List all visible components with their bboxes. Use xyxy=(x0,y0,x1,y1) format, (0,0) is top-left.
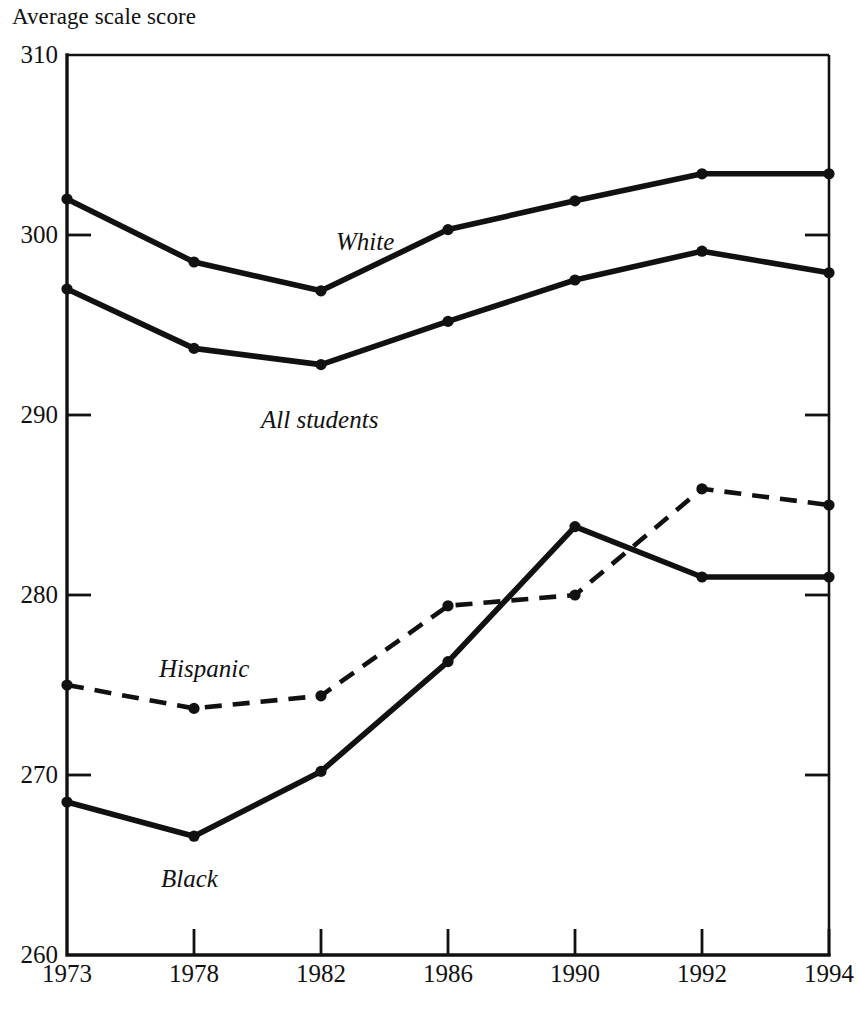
data-point-black xyxy=(61,796,72,807)
data-point-white xyxy=(442,224,453,235)
data-point-black xyxy=(696,571,707,582)
data-point-white xyxy=(188,256,199,267)
data-point-white xyxy=(61,193,72,204)
y-axis-tick-label: 280 xyxy=(0,582,58,607)
data-point-hispanic xyxy=(569,589,580,600)
data-point-all-students xyxy=(442,316,453,327)
data-point-all-students xyxy=(188,343,199,354)
data-point-all-students xyxy=(569,274,580,285)
y-axis-tick-label: 300 xyxy=(0,222,58,247)
data-point-white xyxy=(315,285,326,296)
x-axis-tick-label: 1982 xyxy=(276,961,366,986)
series-label-all-students: All students xyxy=(261,407,378,432)
x-axis-tick-label: 1973 xyxy=(22,961,112,986)
y-axis-tick-label: 310 xyxy=(0,42,58,67)
x-axis-tick-label: 1992 xyxy=(657,961,747,986)
y-axis-tick-label: 270 xyxy=(0,762,58,787)
line-chart: Average scale score 310300290280270260 1… xyxy=(0,0,859,1027)
data-point-black xyxy=(442,656,453,667)
data-point-all-students xyxy=(823,267,834,278)
axis-spines xyxy=(67,55,829,955)
data-point-black xyxy=(823,571,834,582)
data-point-white xyxy=(823,168,834,179)
data-point-hispanic xyxy=(442,600,453,611)
data-point-white xyxy=(569,195,580,206)
series-label-hispanic: Hispanic xyxy=(159,656,249,681)
x-axis-tick-label: 1990 xyxy=(530,961,620,986)
series-label-black: Black xyxy=(161,866,218,891)
data-point-all-students xyxy=(61,283,72,294)
x-axis-tick-label: 1994 xyxy=(784,961,859,986)
data-point-all-students xyxy=(315,359,326,370)
data-point-black xyxy=(569,521,580,532)
series-label-white: White xyxy=(336,229,394,254)
data-point-black xyxy=(315,766,326,777)
data-point-hispanic xyxy=(61,679,72,690)
series-line-all-students xyxy=(67,251,829,364)
data-point-hispanic xyxy=(823,499,834,510)
x-axis-tick-label: 1986 xyxy=(403,961,493,986)
data-point-hispanic xyxy=(188,703,199,714)
x-axis-tick-label: 1978 xyxy=(149,961,239,986)
data-point-all-students xyxy=(696,246,707,257)
data-point-hispanic xyxy=(696,483,707,494)
y-axis-tick-label: 290 xyxy=(0,402,58,427)
data-point-hispanic xyxy=(315,690,326,701)
plot-canvas xyxy=(0,0,859,1027)
data-point-black xyxy=(188,831,199,842)
data-point-white xyxy=(696,168,707,179)
